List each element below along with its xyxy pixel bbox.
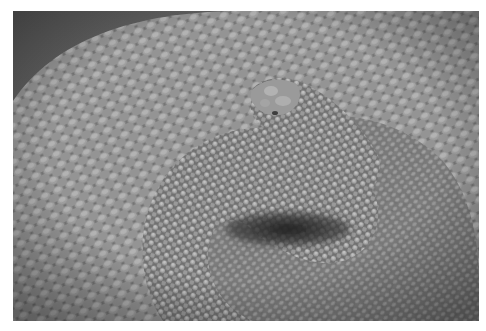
- snake-photo: [13, 11, 479, 321]
- vignette: [13, 11, 479, 321]
- snake-illustration: [13, 11, 479, 321]
